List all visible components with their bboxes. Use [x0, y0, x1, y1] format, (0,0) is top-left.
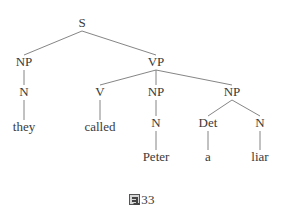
- tree-node-NP3: NP: [224, 84, 241, 99]
- tree-node-V: V: [95, 84, 105, 99]
- tree-node-N3: N: [255, 115, 265, 130]
- tree-edge-S-VP: [82, 31, 156, 55]
- syntax-tree-diagram: SNPVPNVNPNPtheycalledNDetNPeteraliar: [0, 0, 284, 190]
- tree-node-NP2: NP: [148, 84, 165, 99]
- tree-node-N2: N: [151, 115, 161, 130]
- figure-container: SNPVPNVNPNPtheycalledNDetNPeteraliar 33: [0, 0, 284, 220]
- tree-edge-VP-NP3: [156, 70, 232, 85]
- missing-glyph-box-icon: [129, 194, 140, 205]
- tree-edge-S-NP1: [24, 31, 82, 55]
- tree-node-layer: SNPVPNVNPNPtheycalledNDetNPeteraliar: [13, 15, 270, 164]
- terminal-word-liar: liar: [251, 149, 269, 164]
- figure-number: 33: [141, 192, 154, 207]
- tree-node-S: S: [78, 15, 85, 30]
- tree-edge-VP-V: [100, 70, 156, 85]
- tree-edge-NP3-Det: [208, 100, 232, 116]
- terminal-word-called: called: [84, 119, 116, 134]
- tree-node-VP: VP: [148, 54, 165, 69]
- terminal-word-they: they: [13, 119, 36, 134]
- terminal-word-Peter: Peter: [143, 149, 170, 164]
- tree-edge-NP3-N3: [232, 100, 260, 116]
- tree-node-N1: N: [19, 84, 29, 99]
- tree-node-Det: Det: [199, 115, 218, 130]
- figure-caption: 33: [0, 192, 284, 208]
- terminal-word-a: a: [205, 149, 211, 164]
- tree-node-NP1: NP: [16, 54, 33, 69]
